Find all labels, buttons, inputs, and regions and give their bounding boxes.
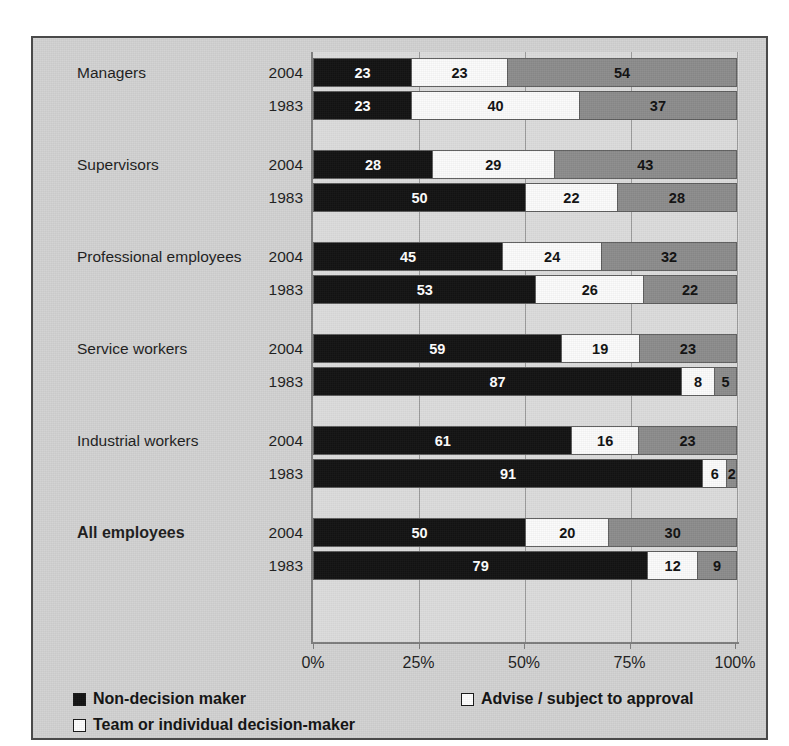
stacked-bar[interactable]: 8785 [313,367,737,396]
segment-value-label: 24 [544,249,560,265]
x-tick-75 [630,642,631,649]
segment-value-label: 50 [411,525,427,541]
bar-segment-s2[interactable]: 37 [580,92,736,119]
bar-row: 19838785 [33,365,766,398]
bar-segment-s1[interactable]: 26 [535,276,644,303]
bar-segment-s1[interactable]: 8 [681,368,715,395]
bar-segment-s0[interactable]: 45 [314,243,502,270]
year-label: 1983 [211,457,303,490]
bar-segment-s2[interactable]: 54 [508,59,736,86]
bar-row: Service workers2004591923 [33,332,766,365]
bar-segment-s1[interactable]: 20 [525,519,609,546]
bar-segment-s2[interactable]: 23 [639,427,736,454]
segment-value-label: 53 [417,282,433,298]
segment-value-label: 61 [435,433,451,449]
year-label: 2004 [211,240,303,273]
segment-value-label: 43 [637,157,653,173]
bar-segment-s2[interactable]: 43 [555,151,736,178]
bar-segment-s1[interactable]: 16 [571,427,639,454]
segment-value-label: 23 [679,433,695,449]
bar-segment-s1[interactable]: 40 [411,92,580,119]
stacked-bar[interactable]: 234037 [313,91,737,120]
bar-row: Managers2004232354 [33,56,766,89]
bar-segment-s0[interactable]: 50 [314,519,525,546]
segment-value-label: 54 [614,65,630,81]
segment-value-label: 6 [711,466,719,482]
segment-value-label: 22 [563,190,579,206]
bar-segment-s0[interactable]: 23 [314,92,411,119]
segment-value-label: 37 [650,98,666,114]
bar-row: 198379129 [33,549,766,582]
chart-legend: Non-decision makerAdvise / subject to ap… [73,690,756,740]
bar-segment-s1[interactable]: 6 [702,460,728,487]
segment-value-label: 16 [597,433,613,449]
segment-value-label: 87 [489,374,505,390]
segment-value-label: 20 [559,525,575,541]
legend-item[interactable]: Advise / subject to approval [461,690,694,708]
bar-segment-s0[interactable]: 23 [314,59,411,86]
bar-segment-s0[interactable]: 53 [314,276,535,303]
stacked-bar[interactable]: 502228 [313,183,737,212]
bar-segment-s1[interactable]: 24 [502,243,602,270]
x-tick-label: 25% [402,654,434,672]
bar-segment-s2[interactable]: 22 [644,276,736,303]
bar-group: Industrial workers200461162319839162 [33,424,766,490]
segment-value-label: 23 [354,65,370,81]
legend-swatch-icon [73,719,86,732]
stacked-bar[interactable]: 79129 [313,551,737,580]
bar-segment-s2[interactable]: 5 [715,368,736,395]
bar-row: Professional employees2004452432 [33,240,766,273]
bar-segment-s1[interactable]: 29 [432,151,554,178]
bar-segment-s0[interactable]: 91 [314,460,702,487]
legend-label: Team or individual decision-maker [93,716,355,734]
x-axis-line [311,642,739,644]
legend-item[interactable]: Team or individual decision-maker [73,716,355,734]
segment-value-label: 22 [682,282,698,298]
bar-segment-s1[interactable]: 12 [647,552,698,579]
legend-swatch-icon [73,693,86,706]
x-tick-100 [735,642,736,649]
stacked-bar[interactable]: 532622 [313,275,737,304]
year-label: 1983 [211,365,303,398]
bar-segment-s0[interactable]: 79 [314,552,647,579]
bar-segment-s2[interactable]: 2 [727,460,736,487]
bar-row: 1983532622 [33,273,766,306]
x-tick-25 [419,642,420,649]
bar-segment-s1[interactable]: 19 [561,335,640,362]
stacked-bar[interactable]: 452432 [313,242,737,271]
segment-value-label: 91 [500,466,516,482]
stacked-bar[interactable]: 591923 [313,334,737,363]
legend-label: Non-decision maker [93,690,246,708]
segment-value-label: 23 [354,98,370,114]
stacked-bar[interactable]: 282943 [313,150,737,179]
bar-segment-s2[interactable]: 23 [640,335,736,362]
bar-segment-s0[interactable]: 87 [314,368,681,395]
stacked-bar[interactable]: 9162 [313,459,737,488]
bar-segment-s1[interactable]: 23 [411,59,508,86]
bar-segment-s0[interactable]: 61 [314,427,571,454]
stacked-bar[interactable]: 502030 [313,518,737,547]
year-label: 2004 [211,148,303,181]
segment-value-label: 12 [665,558,681,574]
legend-item[interactable]: Non-decision maker [73,690,246,708]
bar-group: Professional employees200445243219835326… [33,240,766,306]
bar-group: Managers20042323541983234037 [33,56,766,122]
stacked-bar[interactable]: 611623 [313,426,737,455]
stacked-bar[interactable]: 232354 [313,58,737,87]
bar-segment-s1[interactable]: 22 [525,184,618,211]
year-label: 2004 [211,424,303,457]
segment-value-label: 2 [728,466,736,482]
bar-segment-s2[interactable]: 28 [618,184,736,211]
segment-value-label: 23 [680,341,696,357]
bar-segment-s0[interactable]: 59 [314,335,561,362]
bar-segment-s2[interactable]: 9 [698,552,736,579]
chart-figure-frame: Managers20042323541983234037Supervisors2… [31,36,768,740]
year-label: 2004 [211,516,303,549]
year-label: 2004 [211,332,303,365]
bar-segment-s0[interactable]: 50 [314,184,525,211]
segment-value-label: 23 [452,65,468,81]
bar-segment-s2[interactable]: 32 [602,243,736,270]
bar-segment-s0[interactable]: 28 [314,151,432,178]
segment-value-label: 79 [473,558,489,574]
bar-segment-s2[interactable]: 30 [609,519,736,546]
